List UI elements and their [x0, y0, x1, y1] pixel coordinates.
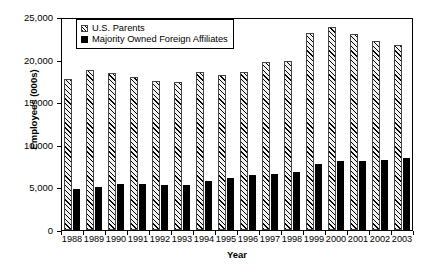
bar-foreign-affiliates — [161, 185, 168, 230]
bar-group — [216, 19, 238, 230]
x-axis-tick-labels: 1988198919901991199219931994199519961997… — [61, 233, 413, 247]
y-axis-tick-labels: 25,00020,00015,00010,0005,0000 — [0, 0, 53, 273]
bar-us-parents — [152, 81, 160, 230]
bar-group — [128, 19, 150, 230]
x-tick-mark — [149, 231, 150, 235]
x-tick-mark — [127, 231, 128, 235]
bar-us-parents — [262, 62, 270, 230]
bar-foreign-affiliates — [249, 175, 256, 230]
x-tick-label: 2003 — [389, 233, 415, 245]
y-tick-label: 15,000 — [9, 98, 53, 108]
bar-foreign-affiliates — [205, 181, 212, 230]
x-tick-mark — [171, 231, 172, 235]
bar-group — [106, 19, 128, 230]
x-tick-mark — [391, 231, 392, 235]
filled-square-swatch-icon — [81, 36, 88, 43]
y-tick-label: 20,000 — [9, 56, 53, 66]
bar-foreign-affiliates — [117, 184, 124, 230]
bar-group — [282, 19, 304, 230]
bar-group — [260, 19, 282, 230]
x-tick-mark — [215, 231, 216, 235]
y-tick-mark — [57, 103, 61, 104]
bar-group — [326, 19, 348, 230]
x-axis-title: Year — [61, 249, 413, 260]
y-tick-mark — [57, 61, 61, 62]
legend-item-parents: U.S. Parents — [81, 23, 228, 34]
legend-label-affiliates: Majority Owned Foreign Affiliates — [92, 34, 228, 45]
bar-us-parents — [394, 45, 402, 230]
x-tick-mark — [325, 231, 326, 235]
x-tick-mark — [259, 231, 260, 235]
y-tick-mark — [57, 188, 61, 189]
x-tick-mark — [281, 231, 282, 235]
y-tick-label: 0 — [9, 226, 53, 236]
y-tick-label: 25,000 — [9, 13, 53, 23]
bar-group — [62, 19, 84, 230]
bar-foreign-affiliates — [139, 184, 146, 230]
bar-us-parents — [306, 33, 314, 230]
bar-foreign-affiliates — [403, 158, 410, 230]
x-tick-mark — [83, 231, 84, 235]
bar-us-parents — [372, 41, 380, 230]
bar-foreign-affiliates — [95, 187, 102, 230]
bar-foreign-affiliates — [337, 161, 344, 230]
x-tick-mark — [413, 231, 414, 235]
bar-us-parents — [328, 27, 336, 230]
bar-group — [304, 19, 326, 230]
bar-us-parents — [240, 72, 248, 230]
bar-us-parents — [350, 34, 358, 230]
chart-legend: U.S. Parents Majority Owned Foreign Affi… — [76, 19, 234, 49]
bar-foreign-affiliates — [293, 172, 300, 230]
y-tick-label: 5,000 — [9, 183, 53, 193]
bar-group — [172, 19, 194, 230]
legend-label-parents: U.S. Parents — [92, 23, 145, 34]
x-tick-mark — [61, 231, 62, 235]
bar-group — [150, 19, 172, 230]
plot-area — [61, 18, 413, 231]
bars-container — [62, 19, 412, 230]
bar-us-parents — [108, 73, 116, 230]
bar-group — [194, 19, 216, 230]
bar-group — [370, 19, 392, 230]
bar-group — [84, 19, 106, 230]
bar-group — [348, 19, 370, 230]
bar-foreign-affiliates — [227, 178, 234, 230]
bar-foreign-affiliates — [381, 160, 388, 230]
y-tick-label: 10,000 — [9, 141, 53, 151]
y-tick-mark — [57, 18, 61, 19]
bar-us-parents — [64, 79, 72, 230]
bar-foreign-affiliates — [359, 161, 366, 230]
x-tick-mark — [347, 231, 348, 235]
bar-group — [238, 19, 260, 230]
bar-us-parents — [218, 75, 226, 230]
bar-foreign-affiliates — [73, 189, 80, 230]
hatched-square-swatch-icon — [81, 25, 88, 32]
bar-us-parents — [284, 61, 292, 230]
bar-group — [392, 19, 414, 230]
bar-foreign-affiliates — [315, 164, 322, 230]
bar-us-parents — [86, 70, 94, 230]
x-tick-mark — [369, 231, 370, 235]
x-tick-mark — [303, 231, 304, 235]
bar-us-parents — [196, 72, 204, 230]
bar-foreign-affiliates — [271, 174, 278, 230]
x-tick-mark — [237, 231, 238, 235]
y-tick-mark — [57, 146, 61, 147]
bar-us-parents — [130, 77, 138, 230]
bar-chart: Employees (000s) 25,00020,00015,00010,00… — [0, 0, 434, 273]
bar-us-parents — [174, 82, 182, 230]
bar-foreign-affiliates — [183, 185, 190, 230]
legend-item-affiliates: Majority Owned Foreign Affiliates — [81, 34, 228, 45]
x-tick-mark — [105, 231, 106, 235]
x-tick-mark — [193, 231, 194, 235]
